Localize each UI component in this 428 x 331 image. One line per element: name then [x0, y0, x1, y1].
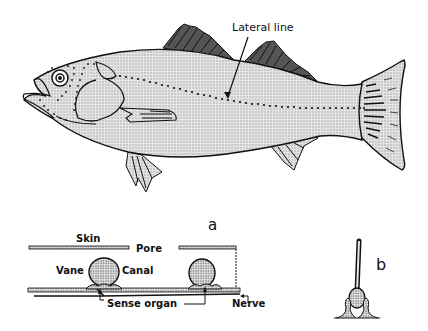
cupula-left [89, 258, 119, 286]
label-skin: Skin [76, 234, 100, 244]
fish-diagram [0, 0, 428, 331]
label-lateral-line: Lateral line [232, 22, 294, 33]
panel-b-sense-organ [334, 241, 380, 318]
cupula-right [189, 259, 215, 287]
label-sense-organ: Sense organ [107, 299, 177, 309]
pelvic-fin [126, 152, 162, 192]
panel-label-b: b [376, 257, 386, 273]
label-vane: Vane [56, 266, 84, 276]
label-nerve: Nerve [232, 299, 265, 309]
caudal-fin [356, 60, 405, 170]
label-canal: Canal [122, 266, 153, 276]
label-pore: Pore [136, 244, 162, 254]
panel-label-a: a [208, 218, 217, 233]
